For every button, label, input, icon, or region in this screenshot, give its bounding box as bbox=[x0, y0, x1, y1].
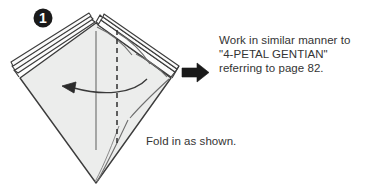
origami-diagram: 1 bbox=[0, 0, 365, 193]
transition-arrow bbox=[182, 63, 209, 82]
fold-caption: Fold in as shown. bbox=[146, 134, 236, 148]
step-badge-number: 1 bbox=[39, 10, 47, 26]
origami-instruction-figure: 1 Work in similar manner to "4-PETAL GEN… bbox=[0, 0, 365, 193]
instruction-line-3: referring to page 82. bbox=[219, 61, 365, 75]
instruction-text-block: Work in similar manner to "4-PETAL GENTI… bbox=[219, 33, 365, 76]
step-number-badge: 1 bbox=[34, 9, 53, 28]
transition-arrow-shape bbox=[182, 63, 209, 82]
paper-model bbox=[11, 13, 179, 183]
instruction-line-2: "4-PETAL GENTIAN" bbox=[219, 47, 365, 61]
instruction-line-1: Work in similar manner to bbox=[219, 33, 365, 47]
